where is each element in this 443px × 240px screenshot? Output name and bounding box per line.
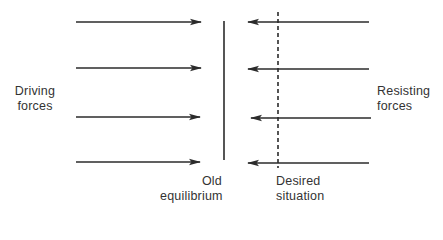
driving-forces-label: Driving forces: [12, 84, 58, 114]
resisting-forces-label-line1: Resisting: [377, 84, 430, 99]
driving-forces-label-line1: Driving: [12, 84, 58, 99]
desired-situation-label-line2: situation: [276, 189, 324, 204]
resisting-forces-label: Resisting forces: [377, 84, 430, 114]
old-equilibrium-label: Old equilibrium: [160, 174, 222, 204]
old-equilibrium-label-line1: Old: [160, 174, 222, 189]
desired-situation-label: Desired situation: [276, 174, 324, 204]
resisting-forces-group: [248, 22, 371, 163]
desired-situation-label-line1: Desired: [276, 174, 324, 189]
resisting-forces-label-line2: forces: [377, 99, 430, 114]
old-equilibrium-label-line2: equilibrium: [160, 189, 222, 204]
driving-forces-group: [76, 22, 201, 162]
driving-forces-label-line2: forces: [12, 99, 58, 114]
